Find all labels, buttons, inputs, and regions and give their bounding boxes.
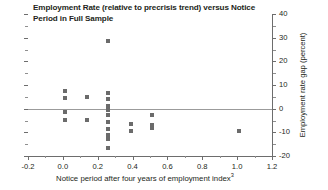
data-point [63, 96, 67, 100]
y-axis-tick [272, 85, 276, 86]
x-axis-minor-tick [220, 156, 221, 158]
y-axis-minor-tick [273, 50, 276, 51]
x-axis-tick-label: 1.0 [232, 162, 243, 171]
y-axis-left-minor-tick [25, 121, 28, 122]
x-axis-minor-tick [45, 156, 46, 158]
y-axis-left-tick [24, 109, 28, 110]
x-axis-tick-label: 1.2 [267, 162, 278, 171]
x-axis-tick [133, 156, 134, 160]
x-axis-tick-label: 0.4 [127, 162, 138, 171]
data-point [106, 39, 110, 43]
y-axis-minor-tick [273, 26, 276, 27]
x-axis-minor-tick [80, 156, 81, 158]
data-point [106, 133, 110, 137]
x-axis-tick [63, 156, 64, 160]
y-axis-tick-label: 10 [279, 81, 287, 89]
y-axis-left-minor-tick [25, 26, 28, 27]
plot-area [28, 14, 272, 156]
data-point [63, 89, 67, 93]
x-axis-tick-label: 0.6 [162, 162, 173, 171]
x-axis-minor-tick [185, 156, 186, 158]
data-point [106, 97, 110, 101]
data-point [63, 118, 67, 122]
x-axis-tick-label: -0.2 [21, 162, 34, 171]
y-axis-tick [272, 14, 276, 15]
y-axis-tick-label: 30 [279, 33, 287, 41]
x-axis-tick [28, 156, 29, 160]
x-axis-tick-label: 0.8 [197, 162, 208, 171]
x-axis-tick [272, 156, 273, 160]
data-point [106, 108, 110, 112]
x-axis-tick [202, 156, 203, 160]
data-point [63, 110, 67, 114]
y-axis-left-tick [24, 85, 28, 86]
data-point [85, 95, 89, 99]
data-point [85, 118, 89, 122]
data-point [237, 129, 241, 133]
y-axis-tick-label: -20 [279, 152, 290, 160]
y-axis-tick-label: 40 [279, 10, 287, 18]
x-axis-tick-label: 0.0 [58, 162, 69, 171]
data-point [150, 113, 154, 117]
y-axis-minor-tick [273, 73, 276, 74]
y-axis-minor-tick [273, 97, 276, 98]
data-point [129, 129, 133, 133]
x-axis-minor-tick [115, 156, 116, 158]
x-axis-tick [237, 156, 238, 160]
y-axis-tick-label: -10 [279, 128, 290, 136]
x-axis-tick [167, 156, 168, 160]
y-axis-minor-tick [273, 121, 276, 122]
x-axis-title-text: Notice period after four years of employ… [56, 174, 231, 183]
chart-figure: Employment Rate (relative to precrisis t… [0, 0, 328, 190]
x-axis-minor-tick [255, 156, 256, 158]
y-axis-left-minor-tick [25, 50, 28, 51]
x-axis-tick-label: 0.2 [92, 162, 103, 171]
y-axis-tick [272, 61, 276, 62]
y-axis-tick [272, 109, 276, 110]
x-axis-title-superscript: 3 [231, 172, 234, 178]
data-point [106, 91, 110, 95]
y-axis-left-minor-tick [25, 73, 28, 74]
y-axis-tick [272, 132, 276, 133]
y-axis-tick [272, 38, 276, 39]
data-point [106, 146, 110, 150]
data-point [106, 113, 110, 117]
data-point [150, 126, 154, 130]
y-axis-title: Employment rate gap (percent) [298, 14, 310, 156]
x-axis-minor-tick [150, 156, 151, 158]
y-axis-left-minor-tick [25, 97, 28, 98]
y-axis-minor-tick [273, 144, 276, 145]
y-axis-tick-label: 20 [279, 57, 287, 65]
data-point [106, 137, 110, 141]
y-axis-left-tick [24, 38, 28, 39]
y-axis-left-tick [24, 61, 28, 62]
y-axis-tick-label: 0 [279, 104, 283, 112]
y-axis-left-minor-tick [25, 144, 28, 145]
data-point [106, 120, 110, 124]
data-point [129, 122, 133, 126]
x-axis-title: Notice period after four years of employ… [0, 174, 290, 183]
y-axis-left-tick [24, 14, 28, 15]
chart-title-line-1: Employment Rate (relative to precrisis t… [33, 2, 245, 13]
data-point [106, 127, 110, 131]
x-axis-tick [98, 156, 99, 160]
y-axis-left-tick [24, 132, 28, 133]
